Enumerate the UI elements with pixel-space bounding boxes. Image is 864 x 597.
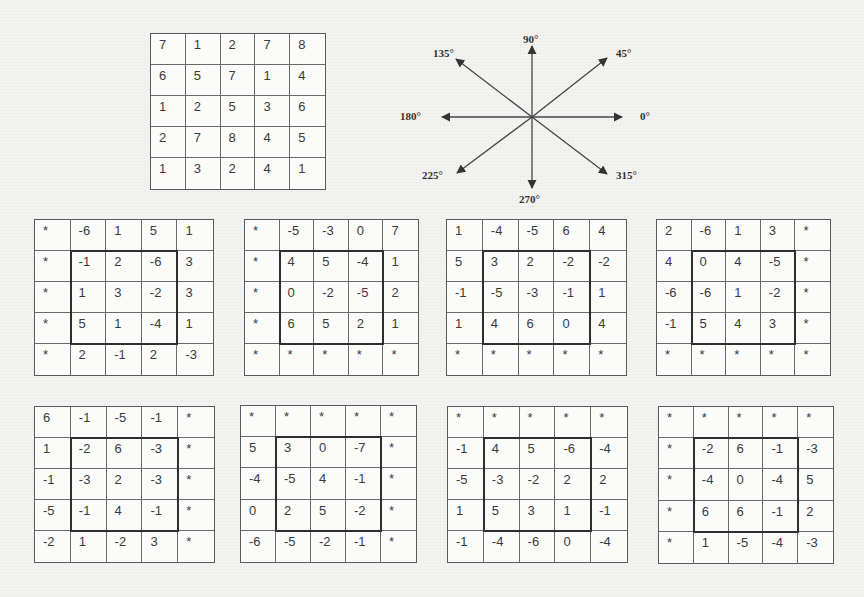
grid-cell: * [659,438,694,469]
grid-cell: 3 [483,251,519,282]
grid-cell: -1 [142,500,178,531]
grid-cell: * [178,500,214,531]
grid-cell: 2 [106,251,142,282]
grid-cell: * [659,469,694,500]
grid-cell: 1 [290,158,325,189]
grid-cell: -3 [519,282,555,313]
grid-cell: 4 [483,313,519,344]
grid-cell: 2 [519,251,555,282]
grid-cell: 1 [726,282,761,313]
grid-cell: -1 [71,407,107,438]
grid-cell: -5 [483,282,519,313]
grid-cell: * [178,438,214,469]
grid-cell: * [35,313,71,344]
grid-cell: 2 [151,127,186,158]
grid-cell: * [763,407,798,438]
grid-cell: -3 [798,438,833,469]
grid-cell: 3 [106,282,142,313]
grid-cell: 3 [186,158,221,189]
grid-cell: * [726,344,761,375]
grid-cell: -3 [142,438,178,469]
grid-cell: * [657,344,692,375]
grid-cell: 3 [761,220,796,251]
grid-cell: -2 [142,282,178,313]
grid-cell: 5 [314,313,349,344]
grid-cell: -1 [447,282,483,313]
grid-cell: -5 [280,220,315,251]
grid-cell: 1 [151,158,186,189]
grid-cell: 1 [71,282,107,313]
grid-cell: -1 [763,501,798,532]
grid-cell: * [178,469,214,500]
grid-cell: 4 [590,220,626,251]
grid-cell: 8 [221,127,256,158]
grid-cell: -3 [142,469,178,500]
grid-cell: -5 [349,282,384,313]
grid-cell: * [520,407,556,438]
direction-grid-270: *****-145-6-4-5-3-2221531-1-1-4-60-4 [447,406,628,563]
grid-cell: 2 [276,500,311,531]
grid-cell: -6 [692,282,727,313]
grid-cell: -1 [71,500,107,531]
grid-cell: * [245,282,280,313]
grid-cell: 4 [726,313,761,344]
grid-cell: 1 [177,220,213,251]
grid-cell: * [483,344,519,375]
grid-cell: * [554,344,590,375]
grid-cell: 5 [692,313,727,344]
grid-cell: 7 [383,220,418,251]
grid-cell: 3 [177,282,213,313]
grid-cell: 1 [555,500,591,531]
grid-cell: -4 [484,531,520,562]
direction-grid-90: 1-4-564532-2-2-1-5-3-1114604***** [446,219,627,376]
grid-cell: -2 [346,500,381,531]
grid-cell: * [311,406,346,437]
grid-cell: * [795,220,830,251]
grid-cell: 6 [729,501,764,532]
grid-cell: 5 [484,500,520,531]
label-135: 135° [433,47,454,59]
grid-cell: 4 [255,158,290,189]
grid-cell: 7 [186,127,221,158]
grid-cell: 4 [255,127,290,158]
grid-cell: 5 [221,96,256,127]
grid-cell: -6 [692,220,727,251]
grid-cell: * [178,407,214,438]
grid-cell: -2 [311,531,346,562]
grid-cell: -1 [106,344,142,375]
grid-cell: -1 [763,438,798,469]
grid-cell: 0 [311,437,346,468]
grid-cell: 6 [280,313,315,344]
grid-cell: -1 [142,407,178,438]
grid-cell: 5 [314,251,349,282]
grid-cell: -2 [694,438,729,469]
grid-cell: * [798,407,833,438]
grid-cell: * [659,501,694,532]
grid-cell: -6 [142,251,178,282]
grid-cell: * [591,407,627,438]
grid-cell: 7 [255,34,290,65]
grid-cell: 3 [255,96,290,127]
grid-cell: * [346,406,381,437]
grid-cell: -1 [591,500,627,531]
grid-cell: 0 [554,313,590,344]
grid-cell: 4 [726,251,761,282]
grid-cell: 2 [221,158,256,189]
grid-cell: -1 [346,468,381,499]
grid-cell: -4 [591,438,627,469]
grid-cell: -1 [448,438,484,469]
grid-cell: -1 [448,531,484,562]
grid-cell: * [761,344,796,375]
grid-cell: * [314,344,349,375]
grid-cell: * [519,344,555,375]
grid-cell: -5 [276,531,311,562]
grid-cell: 1 [383,251,418,282]
grid-cell: -1 [346,531,381,562]
grid-cell: 5 [311,500,346,531]
grid-cell: 1 [447,220,483,251]
grid-cell: 4 [290,65,325,96]
grid-cell: * [590,344,626,375]
grid-cell: * [245,251,280,282]
grid-cell: -6 [657,282,692,313]
grid-cell: 2 [142,344,178,375]
